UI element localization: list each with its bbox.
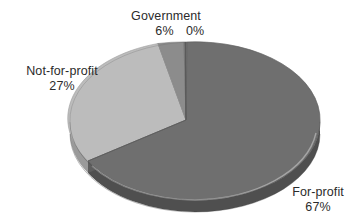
slice-label-for-profit: For-profit 67%: [285, 185, 351, 215]
slice-label-for-profit-name: For-profit: [285, 185, 351, 200]
slice-label-for-profit-percent: 67%: [285, 200, 351, 215]
slice-label-government-name: Government: [118, 9, 214, 24]
slice-label-zero: 0%: [186, 24, 204, 39]
slice-label-not-for-profit-percent: 27%: [10, 79, 114, 94]
slice-label-zero-percent: 0%: [186, 24, 204, 39]
slice-divider-top: [186, 42, 187, 120]
slice-label-not-for-profit-name: Not-for-profit: [10, 64, 114, 79]
pie-chart-figure: Government 6% 0% Not-for-profit 27% For-…: [0, 0, 356, 220]
slice-label-not-for-profit: Not-for-profit 27%: [10, 64, 114, 94]
